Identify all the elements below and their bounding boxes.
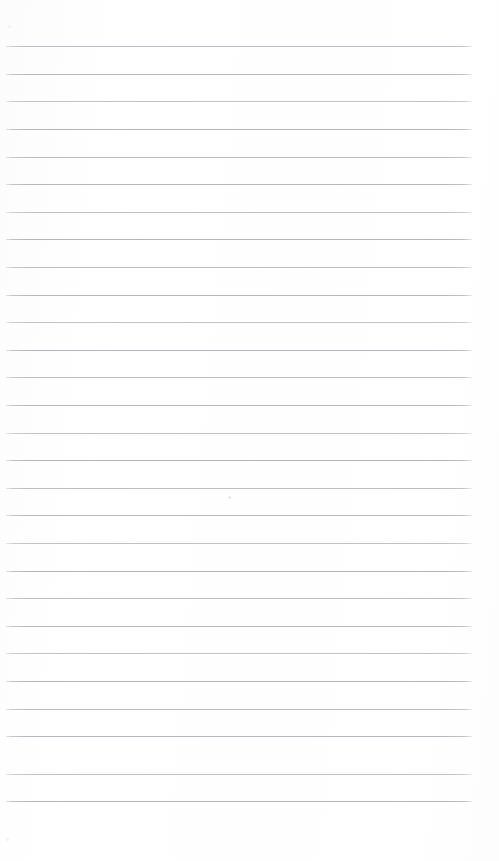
ruled-line [6,515,472,516]
ruled-line [6,239,472,240]
ruled-line [6,350,472,351]
ruled-line [6,101,472,102]
ruled-line [6,184,472,185]
ruled-line [6,709,472,710]
lined-paper-page [0,0,499,861]
ruled-line [6,774,472,775]
ruled-line [6,405,472,406]
ruled-line [6,460,472,461]
ruled-line [6,653,472,654]
ruled-lines-group [0,0,499,861]
ruled-line [6,46,472,47]
ruled-line [6,74,472,75]
ruled-line [6,212,472,213]
ruled-line [6,736,472,737]
ruled-line [6,598,472,599]
ruled-line [6,267,472,268]
ruled-line [6,129,472,130]
ruled-line [6,322,472,323]
ruled-line [6,295,472,296]
ruled-line [6,488,472,489]
ruled-line [6,571,472,572]
ruled-line [6,801,472,802]
ruled-line [6,433,472,434]
ruled-line [6,543,472,544]
ruled-line [6,626,472,627]
ruled-line [6,681,472,682]
ruled-line [6,157,472,158]
ruled-line [6,377,472,378]
